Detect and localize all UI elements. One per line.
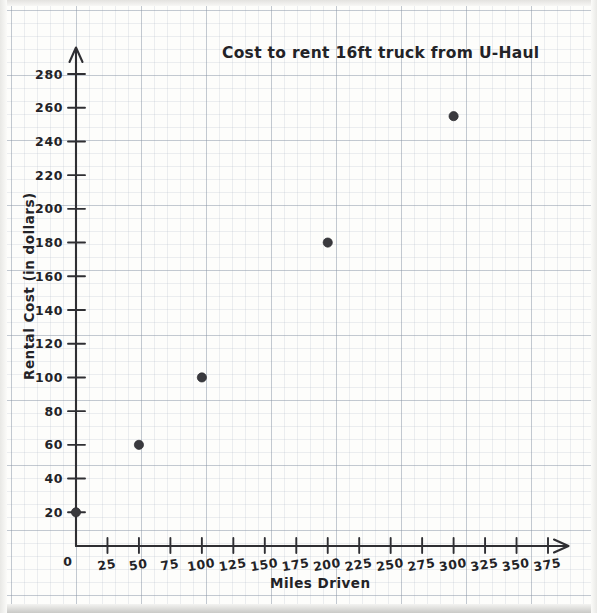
y-tick-label: 120 xyxy=(35,336,63,351)
y-axis-title: Rental Cost (in dollars) xyxy=(21,192,37,380)
y-axis-tick-labels: 204060801001201401601802002202402602800 xyxy=(35,67,73,570)
y-tick-label: 60 xyxy=(44,437,63,452)
data-point xyxy=(323,238,332,247)
x-tick-label: 300 xyxy=(438,555,468,574)
y-tick-label: 240 xyxy=(35,134,63,149)
y-tick-label: 200 xyxy=(35,201,63,216)
y-tick-label: 40 xyxy=(44,471,63,486)
y-tick-label: 180 xyxy=(35,235,63,250)
data-points xyxy=(71,112,458,517)
y-axis xyxy=(70,48,83,547)
x-tick-label: 350 xyxy=(501,555,531,574)
x-axis-title: Miles Driven xyxy=(270,575,371,591)
scatter-plot: 204060801001201401601802002202402602800 … xyxy=(0,0,597,613)
x-tick-label: 200 xyxy=(312,555,342,574)
data-point xyxy=(71,508,80,517)
x-tick-label: 50 xyxy=(128,556,149,574)
data-point xyxy=(449,112,458,121)
x-tick-label: 175 xyxy=(281,555,311,574)
y-tick-label: 160 xyxy=(35,269,63,284)
x-axis-tick-labels: 2550751001251501752002252502753003253503… xyxy=(96,555,562,574)
x-tick-label: 100 xyxy=(186,555,216,574)
data-point xyxy=(134,440,143,449)
y-tick-label: 220 xyxy=(35,168,63,183)
origin-label: 0 xyxy=(63,554,72,569)
x-tick-label: 250 xyxy=(375,555,405,574)
y-tick-label: 100 xyxy=(35,370,63,385)
y-tick-label: 260 xyxy=(35,100,63,115)
data-point xyxy=(197,373,206,382)
y-tick-label: 140 xyxy=(35,303,63,318)
chart-title: Cost to rent 16ft truck from U-Haul xyxy=(222,44,540,62)
x-axis xyxy=(76,540,569,553)
x-tick-label: 275 xyxy=(406,555,436,574)
y-tick-label: 80 xyxy=(44,404,63,419)
x-tick-label: 25 xyxy=(96,556,117,574)
x-tick-label: 225 xyxy=(344,555,374,574)
x-tick-label: 150 xyxy=(249,555,279,574)
x-tick-label: 125 xyxy=(218,555,248,574)
x-tick-label: 75 xyxy=(159,556,180,574)
x-tick-label: 375 xyxy=(532,555,562,574)
y-tick-label: 20 xyxy=(44,505,63,520)
y-tick-label: 280 xyxy=(35,67,63,82)
x-tick-label: 325 xyxy=(469,555,499,574)
worksheet-page: 204060801001201401601802002202402602800 … xyxy=(0,0,597,613)
